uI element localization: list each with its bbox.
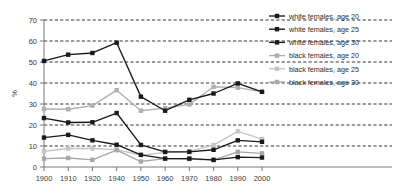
data-point-marker <box>90 146 94 150</box>
y-tick-label: 40 <box>29 79 37 88</box>
data-point-marker <box>114 148 118 152</box>
x-tick-label: 1960 <box>157 174 174 183</box>
data-point-marker <box>187 102 191 106</box>
series-black-females-age-30 <box>42 148 264 164</box>
data-point-marker <box>236 81 240 85</box>
data-point-marker <box>90 138 94 142</box>
data-point-marker <box>139 143 143 147</box>
legend-item-label: black females, age 20 <box>289 51 359 60</box>
data-point-marker <box>260 140 264 144</box>
x-tick-label: 1950 <box>133 174 150 183</box>
y-tick-label: 0 <box>33 163 37 172</box>
data-point-marker <box>42 116 46 120</box>
line-chart: 010203040506070%190019101920194019501960… <box>0 0 399 193</box>
legend: white females, age 20white females, age … <box>269 12 359 87</box>
y-tick-label: 70 <box>29 16 37 25</box>
data-point-marker <box>236 155 240 159</box>
data-point-marker <box>211 158 215 162</box>
y-tick-label: 50 <box>29 58 37 67</box>
legend-item-label: black females, age 30 <box>289 78 359 87</box>
legend-item[interactable]: white females, age 30 <box>269 38 359 47</box>
legend-marker-swatch <box>275 67 279 71</box>
legend-marker-swatch <box>275 53 279 57</box>
data-point-marker <box>66 107 70 111</box>
y-tick-label: 10 <box>29 142 37 151</box>
x-tick-label: 1910 <box>60 174 77 183</box>
data-point-marker <box>139 94 143 98</box>
legend-marker-swatch <box>275 14 279 18</box>
data-point-marker <box>163 109 167 113</box>
data-point-marker <box>42 59 46 63</box>
data-point-marker <box>260 151 264 155</box>
data-point-marker <box>139 159 143 163</box>
legend-item[interactable]: black females, age 30 <box>269 78 359 87</box>
data-point-marker <box>66 120 70 124</box>
data-point-marker <box>90 51 94 55</box>
data-point-marker <box>236 138 240 142</box>
series-white-females-age-30 <box>42 133 264 162</box>
data-point-marker <box>114 143 118 147</box>
data-point-marker <box>187 150 191 154</box>
data-point-marker <box>90 158 94 162</box>
data-point-marker <box>187 98 191 102</box>
data-point-marker <box>42 156 46 160</box>
data-point-marker <box>211 143 215 147</box>
y-tick-label: 30 <box>29 100 37 109</box>
x-axis-group: 1900191019201940195019601970198019902000 <box>36 167 271 183</box>
series-white-females-age-20 <box>42 40 264 112</box>
series-line <box>44 87 262 111</box>
legend-item-label: black females, age 25 <box>289 65 359 74</box>
x-tick-label: 2000 <box>254 174 271 183</box>
data-point-marker <box>211 85 215 89</box>
x-tick-label: 1920 <box>84 174 101 183</box>
data-point-marker <box>90 103 94 107</box>
y-tick-label: 60 <box>29 37 37 46</box>
data-point-marker <box>114 40 118 44</box>
data-point-marker <box>236 85 240 89</box>
data-point-marker <box>236 129 240 133</box>
data-point-marker <box>66 146 70 150</box>
x-tick-label: 1980 <box>205 174 222 183</box>
legend-item[interactable]: black females, age 20 <box>269 51 359 60</box>
series-line <box>44 150 262 161</box>
data-point-marker <box>114 88 118 92</box>
data-point-marker <box>139 153 143 157</box>
series-line <box>44 43 262 111</box>
legend-marker-swatch <box>275 80 279 84</box>
data-point-marker <box>90 120 94 124</box>
legend-item[interactable]: white females, age 25 <box>269 25 359 34</box>
data-point-marker <box>66 52 70 56</box>
legend-item-label: white females, age 25 <box>288 25 359 34</box>
data-point-marker <box>163 156 167 160</box>
y-tick-label: 20 <box>29 121 37 130</box>
legend-marker-swatch <box>275 40 279 44</box>
x-tick-label: 1970 <box>181 174 198 183</box>
data-point-marker <box>66 133 70 137</box>
data-point-marker <box>139 109 143 113</box>
data-point-marker <box>42 149 46 153</box>
data-point-marker <box>187 156 191 160</box>
series-black-females-age-20 <box>42 85 264 113</box>
data-point-marker <box>42 135 46 139</box>
x-tick-label: 1940 <box>108 174 125 183</box>
data-point-marker <box>260 155 264 159</box>
series-line <box>44 135 262 160</box>
series-white-females-age-25 <box>42 111 264 154</box>
x-tick-label: 1900 <box>36 174 53 183</box>
data-point-marker <box>163 150 167 154</box>
data-point-marker <box>114 111 118 115</box>
legend-item-label: white females, age 30 <box>288 38 359 47</box>
data-point-marker <box>66 156 70 160</box>
legend-item-label: white females, age 20 <box>288 12 359 21</box>
data-point-marker <box>42 107 46 111</box>
legend-item[interactable]: black females, age 25 <box>269 65 359 74</box>
legend-marker-swatch <box>275 27 279 31</box>
x-tick-label: 1990 <box>229 174 246 183</box>
chart-canvas: 010203040506070%190019101920194019501960… <box>0 0 399 193</box>
legend-item[interactable]: white females, age 20 <box>269 12 359 21</box>
data-point-marker <box>260 90 264 94</box>
y-axis-title: % <box>10 90 19 97</box>
data-point-marker <box>236 150 240 154</box>
data-point-marker <box>211 91 215 95</box>
data-point-marker <box>211 148 215 152</box>
